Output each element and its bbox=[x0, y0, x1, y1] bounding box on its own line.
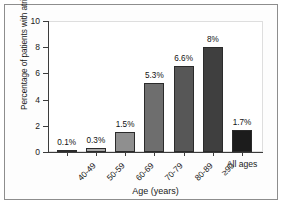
x-tick-mark bbox=[184, 152, 185, 156]
y-tick-mark bbox=[43, 126, 48, 127]
y-tick-label: 0 bbox=[35, 148, 40, 157]
x-category-label: All ages bbox=[212, 160, 272, 169]
x-tick-mark bbox=[125, 152, 126, 156]
x-tick-mark bbox=[67, 152, 68, 156]
bar bbox=[232, 130, 252, 152]
bar-value-label: 1.5% bbox=[105, 121, 145, 129]
y-axis-title: Percentage of patients with atrial fibri… bbox=[19, 0, 29, 110]
bars-layer: 0.1%0.3%1.5%5.3%6.6%8%1.7% bbox=[49, 21, 263, 152]
bar-value-label: 5.3% bbox=[134, 72, 174, 80]
x-tick-mark bbox=[213, 152, 214, 156]
x-axis-line bbox=[48, 152, 263, 153]
y-tick-mark bbox=[43, 47, 48, 48]
x-tick-mark bbox=[154, 152, 155, 156]
y-tick-mark bbox=[43, 73, 48, 74]
x-tick-mark bbox=[242, 152, 243, 156]
bar bbox=[115, 132, 135, 152]
bar bbox=[203, 47, 223, 152]
chart-figure: 0246810 Percentage of patients with atri… bbox=[0, 0, 282, 208]
bar-value-label: 0.3% bbox=[76, 137, 116, 145]
y-tick-label: 6 bbox=[35, 69, 40, 78]
y-tick-label: 2 bbox=[35, 122, 40, 131]
y-tick-mark bbox=[43, 152, 48, 153]
bar-value-label: 6.6% bbox=[164, 55, 204, 63]
bar-value-label: 1.7% bbox=[222, 119, 262, 127]
y-tick-mark bbox=[43, 21, 48, 22]
bar-value-label: 8% bbox=[193, 36, 233, 44]
y-tick-label: 8 bbox=[35, 43, 40, 52]
bar bbox=[144, 83, 164, 152]
bar bbox=[174, 66, 194, 152]
x-axis-title: Age (years) bbox=[48, 186, 263, 196]
y-tick-label: 10 bbox=[31, 17, 40, 26]
y-tick-label: 4 bbox=[35, 95, 40, 104]
y-tick-mark bbox=[43, 100, 48, 101]
x-tick-mark bbox=[96, 152, 97, 156]
